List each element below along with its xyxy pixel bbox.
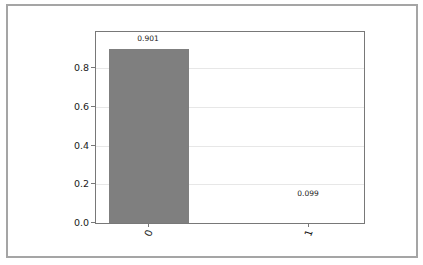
bar — [109, 204, 189, 223]
bar — [109, 49, 189, 223]
plot-area: Quasi-probability — [95, 31, 365, 224]
